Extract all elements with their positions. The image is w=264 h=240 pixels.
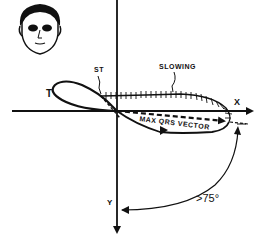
t-wave-label: T [46,89,52,99]
st-label: ST [94,66,104,73]
x-axis-label: X [234,98,240,107]
qrs-direction-arrow [160,126,168,135]
face-icon [19,4,60,54]
vectorcardiogram-diagram [0,0,264,240]
angle-arrow-top [234,126,241,135]
slowing-leader [172,72,175,92]
slowing-label: SLOWING [159,63,196,70]
st-leader [98,76,101,94]
y-axis-label: Y [107,199,112,207]
angle-arc [122,130,238,210]
angle-arrow-left [121,206,129,214]
angle-label: >75° [196,193,219,204]
